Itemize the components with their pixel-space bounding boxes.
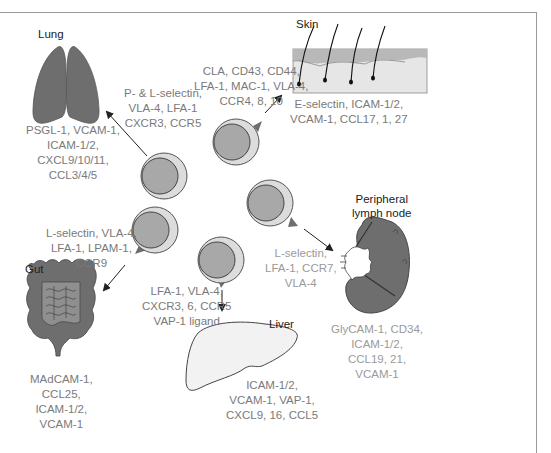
ligand-line: PSGL-1, VCAM-1, <box>26 123 120 138</box>
lymph-node-endothelial-ligands: GlyCAM-1, CD34, ICAM-1/2, CCL19, 21, VCA… <box>331 322 423 382</box>
ligand-line: ICAM-1/2, <box>331 337 423 352</box>
receptor-line: P- & L-selectin, <box>124 86 202 101</box>
lymphocyte-lymph-node <box>247 180 298 227</box>
receptor-line: CCR9 <box>46 256 137 271</box>
lymphocyte-skin <box>213 119 262 165</box>
receptor-line: LFA-1, VLA-4, <box>142 284 231 299</box>
liver-lymphocyte-receptors: LFA-1, VLA-4, CXCR3, 6, CCR5 VAP-1 ligan… <box>142 284 231 329</box>
receptor-line: VLA-4, LFA-1 <box>124 101 202 116</box>
organ-label-gut: Gut <box>25 262 44 276</box>
receptor-line: LFA-1, MAC-1, VLA-4, <box>194 79 308 94</box>
ligand-line: ICAM-1/2, <box>26 138 120 153</box>
receptor-line: CLA, CD43, CD44, <box>194 64 308 79</box>
ligand-line: E-selectin, ICAM-1/2, <box>290 97 408 112</box>
lymph-node-lymphocyte-receptors: L-selectin, LFA-1, CCR7, VLA-4 <box>265 246 337 291</box>
organ-label-lymph-node: Peripheral lymph node <box>352 192 411 220</box>
ligand-line: CCL25, <box>30 387 93 402</box>
organ-label-lung: Lung <box>38 27 64 41</box>
lymphocyte-lung <box>141 153 187 199</box>
receptor-line: LFA-1, LPAM-1, <box>46 241 137 256</box>
ligand-line: GlyCAM-1, CD34, <box>331 322 423 337</box>
lung-endothelial-ligands: PSGL-1, VCAM-1, ICAM-1/2, CXCL9/10/11, C… <box>26 123 120 183</box>
ligand-line: VCAM-1 <box>30 417 93 432</box>
ligand-line: VCAM-1, CCL17, 1, 27 <box>290 112 408 127</box>
lymphocyte-liver <box>198 237 244 288</box>
receptor-line: VLA-4 <box>265 276 337 291</box>
skin-icon <box>293 24 427 93</box>
ligand-line: ICAM-1/2, <box>30 402 93 417</box>
gut-lymphocyte-receptors: L-selectin, VLA-4, LFA-1, LPAM-1, CCR9 <box>46 226 137 271</box>
ligand-line: CCL19, 21, <box>331 352 423 367</box>
organ-label-line: lymph node <box>352 206 411 220</box>
receptor-line: CXCR3, 6, CCR5 <box>142 299 231 314</box>
ligand-line: CXCL9/10/11, <box>26 153 120 168</box>
organ-label-liver: Liver <box>269 317 294 331</box>
ligand-line: ICAM-1/2, <box>226 378 318 393</box>
lymphocyte-gut <box>132 207 178 254</box>
ligand-line: VCAM-1 <box>331 367 423 382</box>
lung-lymphocyte-receptors: P- & L-selectin, VLA-4, LFA-1 CXCR3, CCR… <box>124 86 202 131</box>
receptor-line: L-selectin, <box>265 246 337 261</box>
organ-label-line: Peripheral <box>352 192 411 206</box>
lymph-node-icon <box>340 217 409 313</box>
ligand-line: CXCL9, 16, CCL5 <box>226 408 318 423</box>
ligand-line: CCL3/4/5 <box>26 168 120 183</box>
liver-endothelial-ligands: ICAM-1/2, VCAM-1, VAP-1, CXCL9, 16, CCL5 <box>226 378 318 423</box>
receptor-line: LFA-1, CCR7, <box>265 261 337 276</box>
skin-endothelial-ligands: E-selectin, ICAM-1/2, VCAM-1, CCL17, 1, … <box>290 97 408 127</box>
ligand-line: VCAM-1, VAP-1, <box>226 393 318 408</box>
ligand-line: MAdCAM-1, <box>30 372 93 387</box>
organ-label-skin: Skin <box>296 17 318 31</box>
receptor-line: VAP-1 ligand <box>142 314 231 329</box>
receptor-line: L-selectin, VLA-4, <box>46 226 137 241</box>
receptor-line: CXCR3, CCR5 <box>124 116 202 131</box>
lung-icon <box>33 47 99 124</box>
gut-endothelial-ligands: MAdCAM-1, CCL25, ICAM-1/2, VCAM-1 <box>30 372 93 432</box>
